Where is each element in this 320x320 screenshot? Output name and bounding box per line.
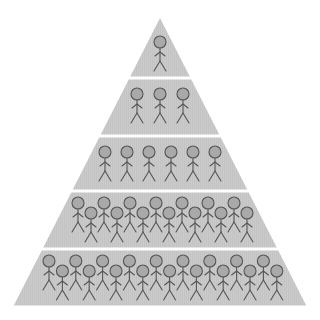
tier-3 — [73, 138, 247, 190]
pyramid-diagram — [0, 0, 320, 320]
